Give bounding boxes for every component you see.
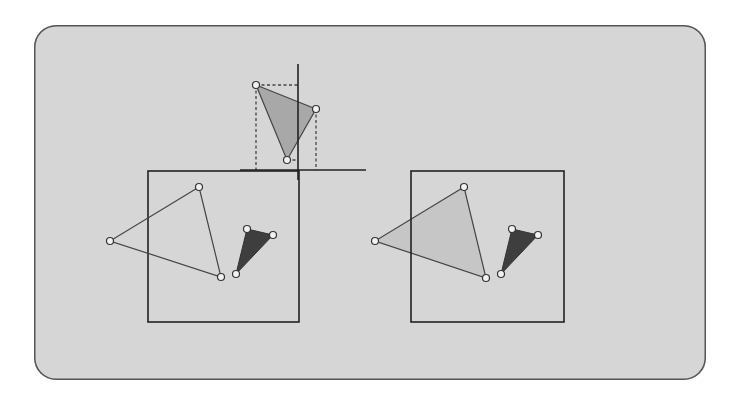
projection-group: [240, 64, 366, 180]
left-small-triangle: [236, 229, 273, 274]
right-large-triangle: [375, 187, 486, 278]
top-triangle: [256, 85, 316, 160]
triangle-projection-diagram: [0, 0, 739, 401]
left-box: [148, 171, 299, 322]
right-small-triangle: [501, 229, 538, 274]
left-large-triangle: [110, 187, 221, 277]
left-view: [107, 171, 300, 322]
right-view: [372, 171, 565, 322]
